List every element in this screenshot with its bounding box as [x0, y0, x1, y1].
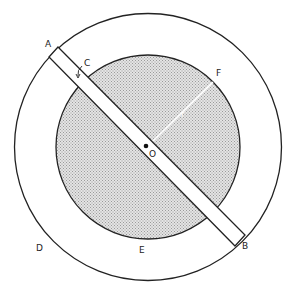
label-c: C — [84, 58, 90, 68]
label-d: D — [36, 243, 43, 253]
label-o: O — [149, 149, 156, 159]
geometry-diagram: A C F r O D E B — [0, 0, 295, 293]
label-e: E — [139, 245, 145, 255]
label-a: A — [45, 39, 52, 49]
center-dot — [144, 144, 149, 149]
label-b: B — [242, 241, 248, 251]
label-f: F — [216, 68, 221, 78]
